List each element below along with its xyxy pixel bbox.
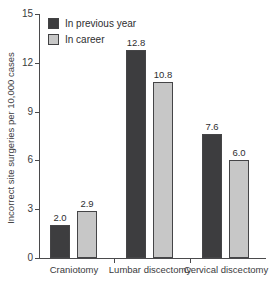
value-label-in-previous-year-cervical-discectomy: 7.6	[192, 121, 232, 133]
x-axis-line	[35, 258, 266, 259]
y-tick-mark-15	[35, 14, 39, 15]
value-label-in-previous-year-craniotomy: 2.0	[40, 212, 80, 224]
bar-in-career-craniotomy	[77, 211, 97, 258]
category-label-cervical-discectomy: Cervical discectomy	[178, 264, 271, 276]
y-tick-label-0: 0	[13, 252, 33, 264]
bar-in-previous-year-craniotomy	[50, 225, 70, 258]
value-label-in-career-lumbar-discectomy: 10.8	[143, 69, 183, 81]
bar-in-previous-year-lumbar-discectomy	[126, 50, 146, 258]
y-tick-mark-12	[35, 63, 39, 64]
bar-in-career-lumbar-discectomy	[153, 82, 173, 258]
bar-in-career-cervical-discectomy	[229, 160, 249, 258]
x-tick-mark-1	[114, 258, 115, 263]
incorrect-site-surgeries-bar-chart: Incorrect site surgeries per 10,000 case…	[0, 0, 271, 283]
y-tick-label-3: 3	[13, 203, 33, 215]
y-axis-title: Incorrect site surgeries per 10,000 case…	[5, 52, 16, 224]
y-tick-mark-6	[35, 160, 39, 161]
y-tick-mark-0	[35, 258, 39, 259]
legend-label-in-career: In career	[65, 34, 104, 45]
y-tick-label-12: 12	[13, 57, 33, 69]
y-tick-mark-3	[35, 209, 39, 210]
legend-item-in-previous-year: In previous year	[48, 15, 136, 31]
legend-swatch-in-previous-year	[48, 18, 59, 29]
value-label-in-career-craniotomy: 2.9	[67, 198, 107, 210]
legend-item-in-career: In career	[48, 31, 136, 47]
y-tick-label-6: 6	[13, 154, 33, 166]
y-tick-mark-9	[35, 112, 39, 113]
value-label-in-career-cervical-discectomy: 6.0	[219, 147, 259, 159]
y-tick-label-9: 9	[13, 106, 33, 118]
y-tick-label-15: 15	[13, 8, 33, 20]
legend-label-in-previous-year: In previous year	[65, 18, 136, 29]
legend: In previous yearIn career	[48, 15, 136, 47]
legend-swatch-in-career	[48, 34, 59, 45]
x-tick-mark-2	[190, 258, 191, 263]
